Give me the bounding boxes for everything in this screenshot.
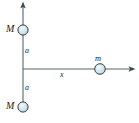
- physics-diagram: M M a a x m: [0, 0, 139, 123]
- mass-particle-top: [18, 25, 28, 35]
- diagram-canvas: [0, 0, 139, 123]
- label-distance-a-top: a: [25, 47, 29, 55]
- mass-particle-m: [95, 64, 106, 75]
- label-distance-x: x: [60, 71, 64, 79]
- label-mass-top: M: [6, 24, 14, 34]
- label-mass-m: m: [95, 54, 101, 63]
- mass-particle-bottom: [18, 102, 28, 112]
- label-mass-bottom: M: [6, 101, 14, 111]
- label-distance-a-bottom: a: [25, 84, 29, 92]
